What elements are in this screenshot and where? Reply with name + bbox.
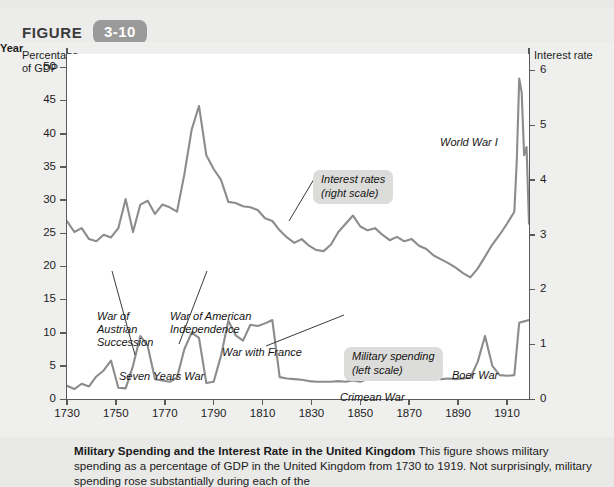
y-tick-label-left: 50 <box>26 60 56 72</box>
y-tick-mark-right <box>529 344 535 346</box>
y-tick-label-right: 2 <box>540 282 546 294</box>
y-tick-label-right: 1 <box>540 337 546 349</box>
y-tick-label-left: 45 <box>26 93 56 105</box>
x-tick-mark <box>213 399 215 405</box>
y-tick-mark-left <box>60 399 66 401</box>
y-tick-label-left: 10 <box>26 326 56 338</box>
x-tick-mark <box>506 399 508 405</box>
x-tick-label: 1890 <box>436 407 480 419</box>
y-tick-label-left: 25 <box>26 226 56 238</box>
figure-number-badge: 3-10 <box>93 20 147 44</box>
x-tick-label: 1850 <box>338 407 382 419</box>
y-tick-label-left: 15 <box>26 292 56 304</box>
x-tick-mark <box>164 399 166 405</box>
caption-text: Military Spending and the Interest Rate … <box>74 443 594 487</box>
annotation-military-spending-callout: Military spending(left scale) <box>344 347 443 381</box>
y-tick-label-right: 6 <box>540 63 546 75</box>
y-tick-mark-right <box>529 234 535 236</box>
y-tick-mark-left <box>60 266 66 268</box>
y-tick-label-left: 0 <box>26 392 56 404</box>
y-tick-label-right: 0 <box>540 392 546 404</box>
x-tick-mark <box>311 399 313 405</box>
y-tick-label-right: 5 <box>540 118 546 130</box>
figure-caption: Military Spending and the Interest Rate … <box>0 437 614 487</box>
x-tick-label: 1830 <box>289 407 333 419</box>
y-tick-label-right: 4 <box>540 173 546 185</box>
y-tick-mark-left <box>60 133 66 135</box>
y-tick-label-left: 35 <box>26 160 56 172</box>
annotation-war-of-american-independence: War of AmericanIndependence <box>170 310 251 336</box>
y-tick-mark-left <box>60 299 66 301</box>
y-tick-mark-left <box>60 365 66 367</box>
y-tick-mark-right <box>529 289 535 291</box>
x-tick-label: 1770 <box>143 407 187 419</box>
annotation-war-with-france: War with France <box>222 346 302 359</box>
y-tick-mark-left <box>60 67 66 69</box>
y-tick-mark-right <box>529 125 535 127</box>
y-tick-label-left: 20 <box>26 259 56 271</box>
y-tick-label-left: 40 <box>26 127 56 139</box>
x-tick-label: 1790 <box>192 407 236 419</box>
y-tick-label-left: 5 <box>26 359 56 371</box>
chart-container: Percentageof GDP Interest rate Year 0510… <box>0 42 614 437</box>
annotation-seven-years-war: Seven Years War <box>119 370 204 383</box>
x-tick-mark <box>262 399 264 405</box>
x-tick-label: 1810 <box>241 407 285 419</box>
y-tick-mark-right <box>529 399 535 401</box>
y-tick-mark-left <box>60 100 66 102</box>
annotation-world-war-i: World War I <box>440 136 498 149</box>
y-tick-label-left: 30 <box>26 193 56 205</box>
x-tick-label: 1910 <box>485 407 529 419</box>
annotation-boer-war: Boer War <box>452 369 498 382</box>
y-tick-mark-left <box>60 166 66 168</box>
x-tick-label: 1870 <box>387 407 431 419</box>
y-tick-mark-left <box>60 199 66 201</box>
figure-label: FIGURE <box>22 24 82 41</box>
y-tick-mark-left <box>60 332 66 334</box>
x-axis-title: Year <box>0 42 614 54</box>
x-tick-mark <box>66 399 68 405</box>
interest-rate-line <box>67 79 529 278</box>
y-axis-right-title: Interest rate <box>534 49 593 62</box>
y-tick-mark-right <box>529 179 535 181</box>
y-tick-label-right: 3 <box>540 228 546 240</box>
caption-title: Military Spending and the Interest Rate … <box>74 444 415 457</box>
x-tick-mark <box>115 399 117 405</box>
annotation-crimean-war: Crimean War <box>340 391 405 404</box>
y-tick-mark-left <box>60 233 66 235</box>
x-tick-mark <box>408 399 410 405</box>
y-tick-mark-right <box>529 70 535 72</box>
annotation-war-of-austrian-succession: War ofAustrianSuccession <box>97 310 153 349</box>
x-tick-mark <box>457 399 459 405</box>
figure-header: FIGURE 3-10 <box>0 8 614 42</box>
x-tick-label: 1750 <box>94 407 138 419</box>
annotation-interest-rates-callout: Interest rates(right scale) <box>313 170 393 204</box>
x-tick-label: 1730 <box>45 407 89 419</box>
